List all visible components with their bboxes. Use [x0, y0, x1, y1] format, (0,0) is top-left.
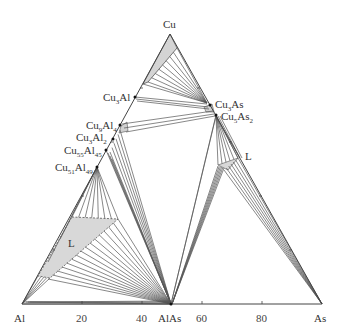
- liquid-label-al-side: L: [68, 237, 75, 249]
- tie-line: [233, 162, 322, 304]
- al-rich-liquid-region: [38, 217, 118, 278]
- phase-label-cu51al49: Cu51Al49: [55, 161, 93, 176]
- tie-line: [231, 164, 322, 304]
- tie-line: [22, 278, 50, 304]
- tie-line: [104, 231, 171, 304]
- liquid-label-as-side: L: [245, 150, 252, 162]
- tie-line: [116, 139, 171, 304]
- ternary-diagram: Cu Al As AlAs 20 40 60 80 Cu3AlCu9Al4Cu3…: [0, 0, 343, 334]
- tick-label-80: 80: [256, 312, 268, 324]
- vertex-label-al: Al: [14, 312, 25, 324]
- tie-line: [22, 277, 41, 305]
- phase-label-cu5as2: Cu5As2: [221, 110, 254, 125]
- alas-label: AlAs: [158, 312, 181, 324]
- point-cu9al4: [119, 124, 122, 127]
- tie-line: [97, 167, 111, 219]
- tick-label-40: 40: [136, 312, 148, 324]
- tie-line: [172, 168, 224, 304]
- tick-label-60: 60: [196, 312, 208, 324]
- vertex-label-as: As: [314, 312, 326, 324]
- tie-line: [137, 101, 209, 109]
- tie-line: [112, 148, 171, 304]
- tie-line: [120, 130, 171, 304]
- tie-line: [163, 65, 208, 103]
- tie-line: [109, 227, 171, 304]
- tie-line: [229, 166, 322, 304]
- tie-line: [22, 277, 44, 304]
- tie-line: [126, 116, 215, 132]
- phase-label-cu55al45: Cu55Al45: [64, 144, 102, 159]
- point-cu55al45: [105, 149, 108, 152]
- tick-label-20: 20: [76, 312, 88, 324]
- point-cu5as2: [215, 114, 218, 117]
- tie-line: [224, 170, 322, 304]
- vertex-label-cu: Cu: [163, 18, 176, 30]
- tie-line: [124, 114, 214, 128]
- tie-line: [76, 255, 171, 304]
- point-cu3as: [209, 104, 212, 107]
- tie-line: [97, 167, 118, 219]
- point-cu3al2: [112, 138, 115, 141]
- tie-line: [171, 115, 216, 304]
- point-alas: [170, 303, 173, 306]
- point-cu3al: [134, 96, 137, 99]
- tie-line: [226, 168, 322, 304]
- point-cu51al49: [96, 166, 99, 169]
- tie-line: [236, 160, 322, 304]
- tie-line: [122, 111, 213, 124]
- phase-label-cu3al: Cu3Al: [103, 91, 130, 106]
- tie-lines: [22, 48, 322, 304]
- tie-line: [71, 259, 171, 304]
- tie-line: [112, 159, 171, 304]
